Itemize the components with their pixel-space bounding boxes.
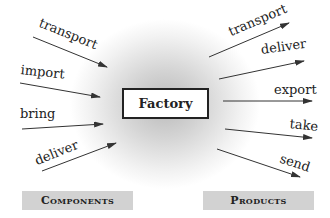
output-label-export: export — [274, 82, 317, 97]
factory-diagram: transport import bring deliver transport… — [0, 0, 330, 218]
input-arrow-import — [20, 83, 100, 97]
factory-box: Factory — [122, 88, 209, 119]
output-label-take: take — [289, 116, 319, 134]
factory-label: Factory — [139, 96, 193, 111]
input-arrow-bring — [22, 124, 103, 129]
components-label: Components — [22, 191, 133, 210]
input-label-bring: bring — [20, 106, 55, 121]
output-arrow-deliver — [219, 61, 304, 79]
products-label: Products — [203, 191, 314, 210]
